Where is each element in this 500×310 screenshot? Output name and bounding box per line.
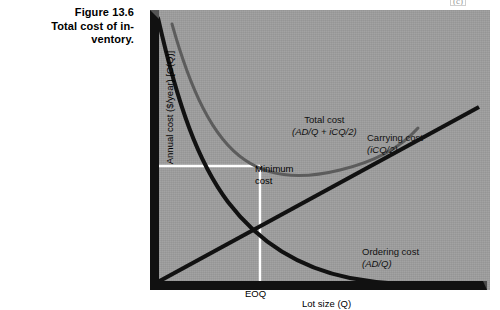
x-axis-bar xyxy=(150,281,487,290)
eoq-tick-label: EOQ xyxy=(245,288,266,299)
plot-panel: Total cost (AD/Q + iCQ/2) Carrying cost … xyxy=(150,10,490,290)
x-axis-title: Lot size (Q) xyxy=(302,298,351,309)
carrying-cost-label-text: Carrying cost xyxy=(367,132,423,144)
figure-container: Figure 13.6 Total cost of in- ventory. (… xyxy=(0,0,500,310)
total-cost-formula: (AD/Q + iCQ/2) xyxy=(292,126,357,138)
total-cost-label: Total cost (AD/Q + iCQ/2) xyxy=(292,114,357,137)
minimum-cost-annotation: Minimum cost xyxy=(255,163,294,187)
corner-mark: (c) xyxy=(450,0,466,6)
minimum-cost-line-2: cost xyxy=(255,175,294,187)
ordering-cost-label: Ordering cost (AD/Q) xyxy=(362,246,419,269)
y-axis-title: Annual cost ($/year) [C(Q)] xyxy=(164,33,175,183)
minimum-cost-line-1: Minimum xyxy=(255,163,294,175)
curve-layer xyxy=(150,10,490,290)
figure-caption-line-2: Total cost of in- xyxy=(6,20,134,34)
carrying-cost-formula: (iCQ/2) xyxy=(367,144,423,156)
carrying-cost-label: Carrying cost (iCQ/2) xyxy=(367,132,423,155)
figure-caption-line-3: ventory. xyxy=(6,33,134,47)
ordering-cost-label-text: Ordering cost xyxy=(362,246,419,258)
figure-caption: Figure 13.6 Total cost of in- ventory. xyxy=(6,6,134,47)
y-axis-bar xyxy=(150,10,159,290)
total-cost-label-text: Total cost xyxy=(292,114,357,126)
figure-caption-line-1: Figure 13.6 xyxy=(6,6,134,20)
x-axis-bevel xyxy=(483,281,487,290)
y-axis-bevel xyxy=(150,10,159,19)
ordering-cost-formula: (AD/Q) xyxy=(362,258,419,270)
